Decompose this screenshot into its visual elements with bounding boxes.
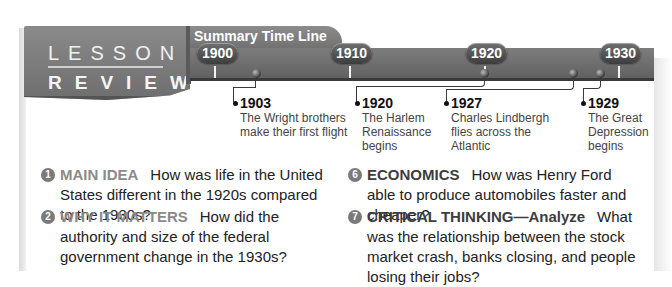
tick-1930 [618,66,620,78]
question-category: WHY IT MATTERS [60,208,188,225]
review-title: REVIEW [48,72,201,94]
event-1903: 1903 The Wright brothers make their firs… [240,96,350,139]
connector-1929-b [583,88,585,102]
question-category: ECONOMICS [367,166,460,183]
event-description: Charles Lindbergh flies across the Atlan… [451,111,549,153]
question-category: MAIN IDEA [60,166,138,183]
connector-1920-b [356,86,358,102]
lesson-title: LESSON 4 [48,42,168,65]
connector-1927-a [446,78,574,90]
year-label-1930: 1930 [600,43,641,63]
tick-1900 [214,66,216,78]
bullet-dot-icon [444,101,449,106]
number-circle-icon: 2 [41,210,55,224]
lesson-divider [48,66,163,68]
question-7: 7 CRITICAL THINKING—AnalyzeWhat was the … [367,207,642,287]
bullet-dot-icon [581,101,586,106]
event-year: 1927 [451,96,561,110]
event-description: The Harlem Renaissance begins [362,111,431,153]
number-circle-icon: 1 [41,168,55,182]
connector-1929-a [583,78,601,89]
event-marker-1927 [569,69,578,78]
tick-1910 [349,66,351,78]
right-page-shadow [654,58,672,271]
event-1920: 1920 The Harlem Renaissance begins [362,96,427,153]
event-1927: 1927 Charles Lindbergh flies across the … [451,96,561,153]
year-label-1920: 1920 [466,43,507,63]
number-circle-icon: 6 [348,168,362,182]
event-description: The Great Depression begins [588,111,649,153]
event-year: 1929 [588,96,648,110]
year-label-1900: 1900 [197,43,238,63]
number-circle-icon: 7 [348,210,362,224]
bullet-dot-icon [233,101,238,106]
event-marker-1903 [252,69,261,78]
event-description: The Wright brothers make their first fli… [240,111,347,139]
question-2: 2 WHY IT MATTERSHow did the authority an… [60,207,335,267]
event-year: 1920 [362,96,427,110]
bullet-dot-icon [355,101,360,106]
event-1929: 1929 The Great Depression begins [588,96,648,153]
timeline-label: Summary Time Line [194,28,327,44]
event-year: 1903 [240,96,350,110]
year-label-1910: 1910 [331,43,372,63]
event-marker-1920 [480,69,489,78]
event-marker-1929 [596,69,605,78]
question-category: CRITICAL THINKING—Analyze [367,208,585,225]
